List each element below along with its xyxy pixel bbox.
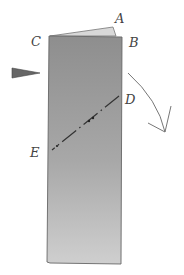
label-a: A xyxy=(115,12,124,25)
fold-diagram-svg xyxy=(0,0,184,275)
label-e: E xyxy=(30,146,40,159)
fold-point xyxy=(88,120,90,122)
label-d: D xyxy=(125,93,135,106)
arrowhead xyxy=(148,106,171,132)
fold-diagram: A B C D E xyxy=(0,0,184,275)
paper-strip xyxy=(47,36,122,264)
label-b: B xyxy=(129,36,139,49)
back-flap xyxy=(50,27,116,36)
label-c: C xyxy=(31,35,41,48)
fold-point xyxy=(92,117,94,119)
pointer-arrow-icon xyxy=(12,68,40,78)
fold-point xyxy=(56,145,58,147)
